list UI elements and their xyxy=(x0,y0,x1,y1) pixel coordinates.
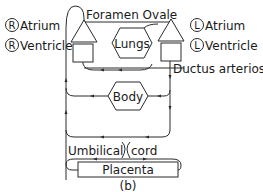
arrow-icon xyxy=(118,69,122,72)
arrow-icon xyxy=(100,69,104,72)
arrow-icon xyxy=(65,110,68,114)
legend-label: Atrium xyxy=(205,19,245,33)
placenta-loop-left xyxy=(66,159,78,170)
body-return-path xyxy=(148,90,170,96)
ductus-arteriosus-label: Ductus arteriosus xyxy=(173,62,263,76)
legend-label: Ventricle xyxy=(205,39,258,53)
legend-symbol: L xyxy=(194,20,200,31)
legend-right-ventricle: R Ventricle xyxy=(6,39,73,54)
left-ventricle-shape xyxy=(161,43,181,61)
pulmonary-vein-path xyxy=(144,24,158,28)
legend-label: Ventricle xyxy=(20,39,73,53)
legend-symbol: L xyxy=(194,40,200,51)
arrow-icon xyxy=(169,75,172,79)
placenta-label: Placenta xyxy=(102,163,154,177)
body-label: Body xyxy=(113,90,143,104)
umbilical-label: Umbilical xyxy=(68,144,123,158)
legend-label: Atrium xyxy=(20,19,60,33)
cord-label: cord xyxy=(131,144,157,158)
lungs-label: Lungs xyxy=(114,37,150,51)
arrow-icon xyxy=(100,136,104,139)
legend-left-atrium: L Atrium xyxy=(191,19,246,34)
right-ventricle-shape xyxy=(73,44,93,62)
cord-bracket xyxy=(127,142,130,158)
legend-right-atrium: R Atrium xyxy=(6,19,61,34)
arrow-icon xyxy=(169,106,172,110)
arrow-icon xyxy=(90,95,94,98)
body-out-path xyxy=(66,88,108,96)
legend-symbol: R xyxy=(9,20,16,31)
arrow-icon xyxy=(157,95,161,98)
figure-caption: (b) xyxy=(120,179,137,192)
legend-left-ventricle: L Ventricle xyxy=(191,39,258,54)
arrow-icon xyxy=(145,136,149,139)
fetal-circulation-diagram: R Atrium R Ventricle L Atrium L Ventricl… xyxy=(0,0,263,192)
pulmonary-artery-path xyxy=(83,62,152,70)
legend-symbol: R xyxy=(9,40,16,51)
arrow-icon xyxy=(65,78,68,82)
right-atrium-shape xyxy=(71,20,97,42)
foramen-ovale-label: Foramen Ovale xyxy=(86,8,177,22)
